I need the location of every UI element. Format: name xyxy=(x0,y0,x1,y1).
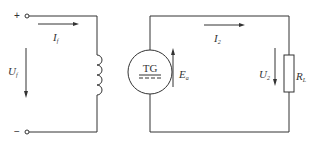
field-circuit: + − If Uf xyxy=(8,10,102,137)
plus-terminal-label: + xyxy=(14,10,20,21)
minus-terminal-label: − xyxy=(14,126,20,137)
current-label-i2: I2 xyxy=(213,32,221,45)
generator-label: TG xyxy=(143,62,158,74)
voltage-label-uf: Uf xyxy=(8,65,19,78)
resistor-label-rl: RL xyxy=(295,70,307,83)
minus-terminal xyxy=(25,130,29,134)
arrow-head-icon xyxy=(239,23,245,27)
armature-circuit: TG Ea I2 RL U2 xyxy=(128,16,307,132)
arrow-head-icon xyxy=(273,79,277,86)
current-label-if: If xyxy=(52,31,60,44)
plus-terminal xyxy=(25,14,29,18)
arrow-head-icon xyxy=(73,22,79,26)
resistor-icon xyxy=(284,55,294,92)
circuit-diagram: + − If Uf TG Ea I2 xyxy=(0,0,317,145)
emf-label-ea: Ea xyxy=(178,68,189,81)
arrow-head-icon xyxy=(24,91,28,98)
arrow-head-icon xyxy=(171,48,175,55)
inductor-icon xyxy=(97,55,102,95)
voltage-label-u2: U2 xyxy=(259,68,270,81)
